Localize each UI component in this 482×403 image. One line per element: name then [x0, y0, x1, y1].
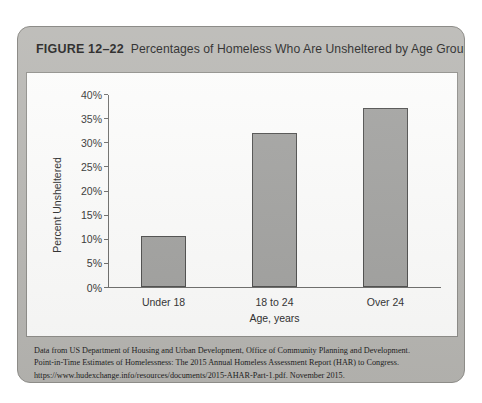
bars-layer [108, 95, 441, 288]
bar [363, 108, 408, 287]
x-tick-label: 18 to 24 [256, 296, 294, 308]
y-tick-label: 0% [87, 283, 102, 294]
y-tick-label: 10% [81, 235, 102, 246]
y-tick-label: 35% [81, 114, 102, 125]
figure-title: Percentages of Homeless Who Are Unshelte… [131, 42, 465, 56]
figure-source: Data from US Department of Housing and U… [34, 345, 450, 382]
x-tick-label: Under 18 [142, 296, 185, 308]
figure-card: FIGURE 12–22 Percentages of Homeless Who… [17, 26, 465, 383]
y-tick-label: 40% [81, 90, 102, 101]
y-tick-mark [104, 118, 108, 119]
x-axis-title: Age, years [249, 312, 299, 324]
bar [141, 236, 186, 287]
bar-chart: Percent Unsheltered 0%5%10%15%20%25%30%3… [27, 73, 457, 336]
y-tick-mark [104, 191, 108, 192]
y-tick-mark [104, 142, 108, 143]
y-tick-label: 15% [81, 210, 102, 221]
y-tick-mark [104, 215, 108, 216]
y-tick-label: 5% [87, 259, 102, 270]
bar [252, 133, 297, 287]
chart-panel: Percent Unsheltered 0%5%10%15%20%25%30%3… [26, 72, 458, 337]
source-line: Point-in-Time Estimates of Homelessness:… [34, 357, 450, 369]
y-tick-mark [104, 166, 108, 167]
source-line: https://www.hudexchange.info/resources/d… [34, 370, 450, 382]
y-tick-label: 20% [81, 186, 102, 197]
y-tick-mark [104, 94, 108, 95]
figure-header: FIGURE 12–22 Percentages of Homeless Who… [18, 27, 464, 71]
y-axis-title: Percent Unsheltered [51, 157, 63, 253]
y-tick-mark [104, 287, 108, 288]
figure-number: FIGURE 12–22 [36, 42, 124, 56]
plot-region: 0%5%10%15%20%25%30%35%40% Under 1818 to … [108, 95, 441, 288]
y-tick-label: 25% [81, 162, 102, 173]
source-line: Data from US Department of Housing and U… [34, 345, 450, 357]
y-tick-mark [104, 263, 108, 264]
x-tick-label: Over 24 [367, 296, 404, 308]
y-tick-label: 30% [81, 138, 102, 149]
y-tick-mark [104, 239, 108, 240]
